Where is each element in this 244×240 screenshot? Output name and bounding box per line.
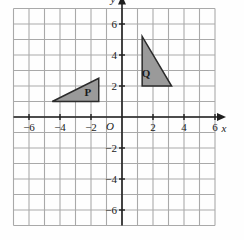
x-tick-label: 4 [181,121,187,133]
y-axis-arrowhead [118,0,126,5]
y-tick-label: 6 [112,18,118,30]
x-tick-label: 6 [212,121,218,133]
shape-label-q: Q [142,67,151,79]
coordinate-grid-figure: PQ −6−4−2246642−2−4−6Oxy [0,0,244,240]
y-tick-label: 2 [112,80,118,92]
x-tick-label: −4 [54,121,66,133]
x-tick-label: 2 [150,121,156,133]
x-tick-label: −2 [85,121,97,133]
origin-label: O [106,120,114,132]
y-axis-label: y [110,0,116,5]
x-tick-label: −6 [23,121,35,133]
cartesian-plane-svg: PQ −6−4−2246642−2−4−6Oxy [0,0,244,240]
x-axis-label: x [221,122,227,134]
axes [14,0,227,226]
y-tick-label: −6 [105,204,117,216]
y-tick-label: 4 [112,49,118,61]
axis-tick-labels: −6−4−2246642−2−4−6Oxy [23,0,226,216]
x-axis-arrowhead [217,113,226,121]
shape-label-p: P [85,86,92,98]
y-tick-label: −4 [105,173,117,185]
y-tick-label: −2 [105,142,117,154]
